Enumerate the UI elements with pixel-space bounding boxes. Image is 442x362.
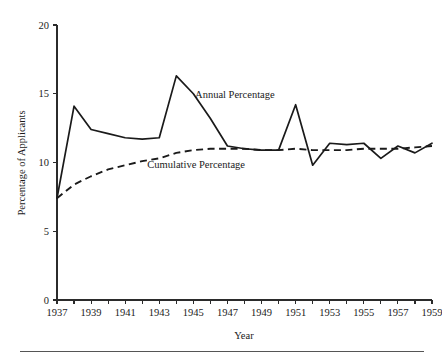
x-tick-label: 1953 bbox=[319, 307, 340, 318]
x-tick-label: 1955 bbox=[353, 307, 374, 318]
line-chart: 05101520 1937193919411943194519471949195… bbox=[0, 0, 442, 362]
y-tick-label: 20 bbox=[39, 20, 50, 31]
x-tick-label: 1939 bbox=[81, 307, 102, 318]
x-axis-ticks: 1937193919411943194519471949195119531955… bbox=[47, 300, 442, 318]
x-tick-label: 1957 bbox=[387, 307, 408, 318]
x-tick-label: 1941 bbox=[115, 307, 136, 318]
x-tick-label: 1951 bbox=[285, 307, 306, 318]
x-tick-label: 1949 bbox=[251, 307, 272, 318]
x-axis-title: Year bbox=[234, 330, 254, 341]
y-axis-title: Percentage of Applicants bbox=[16, 111, 27, 216]
x-tick-label: 1937 bbox=[47, 307, 68, 318]
x-tick-label: 1945 bbox=[183, 307, 204, 318]
y-axis-ticks: 05101520 bbox=[39, 20, 58, 306]
y-tick-label: 5 bbox=[44, 226, 49, 237]
x-tick-label: 1943 bbox=[149, 307, 170, 318]
series-label: Annual Percentage bbox=[195, 89, 275, 100]
plot-area: 05101520 1937193919411943194519471949195… bbox=[39, 20, 442, 318]
series-label: Cumulative Percentage bbox=[147, 159, 245, 170]
x-tick-label: 1947 bbox=[217, 307, 238, 318]
y-tick-label: 15 bbox=[39, 88, 50, 99]
x-tick-label: 1959 bbox=[422, 307, 442, 318]
y-tick-label: 10 bbox=[39, 157, 50, 168]
figure-container: 05101520 1937193919411943194519471949195… bbox=[0, 0, 442, 362]
series-annotations: Annual PercentageCumulative Percentage bbox=[147, 89, 275, 170]
y-tick-label: 0 bbox=[44, 295, 49, 306]
